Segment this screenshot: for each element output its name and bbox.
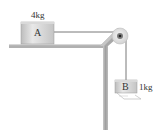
block-b-letter: B	[122, 82, 129, 92]
pulley-diagram: 4kg A B 1kg	[0, 0, 165, 134]
table-leg	[103, 46, 108, 130]
block-b-mass-label: 1kg	[139, 83, 153, 92]
pulley-icon	[112, 28, 128, 44]
block-a-mass-label: 4kg	[31, 11, 45, 20]
table-top	[9, 44, 104, 48]
block-a-letter: A	[34, 28, 41, 38]
diagram-canvas	[0, 0, 165, 134]
